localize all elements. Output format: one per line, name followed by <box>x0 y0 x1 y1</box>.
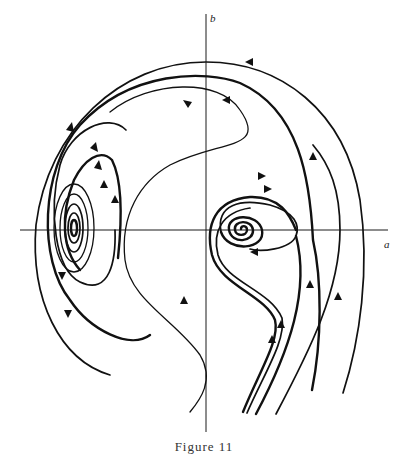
arrow-icon <box>245 58 253 66</box>
arrow-icon <box>66 122 74 132</box>
arrow-icon <box>180 296 188 304</box>
b-axis-label: b <box>210 12 216 24</box>
right-flow-1 <box>256 236 301 414</box>
arrow-icon <box>306 280 314 288</box>
arrow-icon <box>58 272 66 280</box>
arrow-icon <box>100 180 108 188</box>
arrow-icon <box>111 195 119 203</box>
arrow-icon <box>90 142 98 152</box>
left-spiral-ring-5 <box>71 220 77 236</box>
arrow-icon <box>277 320 285 328</box>
a-axis-label: a <box>384 238 390 250</box>
outer-trajectory <box>35 62 364 393</box>
right-spiral <box>221 217 262 246</box>
figure-caption: Figure 11 <box>0 439 408 455</box>
arrow-icon <box>64 310 72 318</box>
arrow-icon <box>264 185 272 193</box>
arrow-icon <box>309 152 317 160</box>
arrow-icon <box>94 160 102 170</box>
inner-arc <box>110 87 248 412</box>
arrow-icon <box>334 292 342 300</box>
arrow-icon <box>183 100 192 108</box>
arrow-icon <box>258 172 266 180</box>
